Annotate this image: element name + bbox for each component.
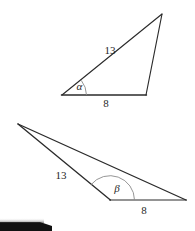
triangle-bottom-label-13: 13 (56, 169, 68, 181)
triangle-bottom-label-8: 8 (141, 204, 147, 216)
triangle-bottom-angle-beta: β (113, 182, 120, 194)
page-edge-shadow (0, 218, 52, 231)
triangle-bottom-group: 13 8 β (18, 124, 187, 216)
figure-container: 13 8 α 13 8 β (0, 0, 195, 231)
triangle-top-group: 13 8 α (61, 14, 162, 109)
triangle-top-angle-alpha: α (77, 80, 83, 92)
edge-shadow-feather (0, 218, 44, 223)
triangle-top-label-8: 8 (103, 97, 109, 109)
triangle-top-label-13: 13 (105, 44, 117, 56)
geometry-figure: 13 8 α 13 8 β (0, 0, 195, 231)
edge-shadow-band (0, 222, 52, 231)
